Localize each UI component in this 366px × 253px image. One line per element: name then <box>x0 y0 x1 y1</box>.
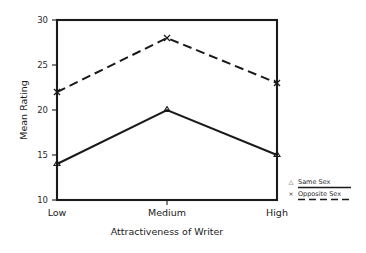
y-tick-label-30: 30 <box>37 15 48 25</box>
legend-marker-opposite-sex: × <box>288 190 293 197</box>
x-tick-label-high: High <box>266 207 288 218</box>
y-tick-label-10: 10 <box>37 195 48 205</box>
y-tick-label-15: 15 <box>37 150 48 160</box>
legend-marker-same-sex: △ <box>289 178 294 185</box>
y-tick-label-25: 25 <box>37 60 48 70</box>
line-chart-canvas: 30 25 20 15 10 Low Me <box>0 0 366 253</box>
x-axis-title: Attractiveness of Writer <box>111 226 224 237</box>
x-tick-label-medium: Medium <box>148 207 186 218</box>
y-axis-title: Mean Rating <box>18 80 29 140</box>
x-tick-label-low: Low <box>48 207 67 218</box>
y-tick-label-20: 20 <box>37 105 48 115</box>
chart-figure: 30 25 20 15 10 Low Me <box>0 0 366 253</box>
legend-label-same-sex: Same Sex <box>298 178 331 186</box>
legend-label-opposite-sex: Opposite Sex <box>298 190 341 198</box>
